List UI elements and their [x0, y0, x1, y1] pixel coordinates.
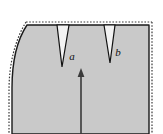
notch-b-label: b: [115, 46, 121, 58]
diagram-canvas: a b: [0, 0, 163, 134]
figure-container: a b: [0, 0, 163, 134]
notch-a-label: a: [69, 50, 75, 62]
